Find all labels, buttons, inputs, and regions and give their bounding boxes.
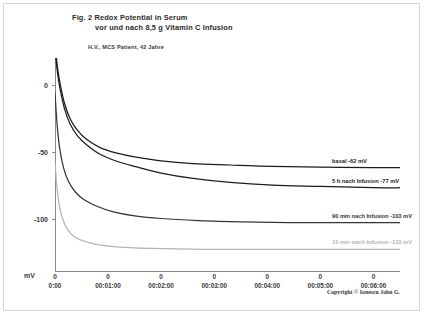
y-axis-tick-mark [52,85,55,86]
x-axis-tick-label: 00:03:00 [201,281,227,290]
x-axis-tick: 000:01:00 [95,272,121,290]
x-axis-tick-zero: 0 [361,272,387,281]
x-axis-tick: 000:03:00 [201,272,227,290]
chart-series-label: 90 min nach Infusion -103 mV [332,213,412,219]
x-axis-tick: 000:05:00 [308,272,334,290]
y-axis-unit-label: mV [24,272,35,279]
patient-info: H.V., MCS Patient, 42 Jahre [88,44,164,50]
y-axis-tick-label: -100 [34,215,48,222]
x-axis-tick-zero: 0 [201,272,227,281]
copyright-notice: Copyright © Ionescu John G. [327,289,400,295]
x-axis-tick: 00:00 [49,272,62,290]
x-axis-tick-label: 00:01:00 [95,281,121,290]
chart-series-label: basal -62 mV [332,158,367,164]
x-axis-tick: 000:06:00 [361,272,387,290]
chart-series-line [55,162,400,249]
figure-subtitle: vor und nach 8,5 g Vitamin C Infusion [72,23,233,33]
x-axis-tick-zero: 0 [255,272,281,281]
chart-series-label: 15 min nach Infusion -123 mV [332,239,412,245]
y-axis-tick-label: -50 [38,148,48,155]
page-title: Fig. 2 Redox Potential in Serum [72,13,233,23]
x-axis-tick: 000:02:00 [148,272,174,290]
figure-page: Fig. 2 Redox Potential in Serum vor und … [0,0,424,315]
x-axis-tick-label: 00:02:00 [148,281,174,290]
y-axis-tick-mark [52,219,55,220]
y-axis-tick-mark [52,152,55,153]
x-axis-tick-label: 00:04:00 [255,281,281,290]
x-axis-tick-label: 0:00 [49,281,62,290]
x-axis-tick-zero: 0 [49,272,62,281]
chart-plot-area: 0-50-10000:00000:01:00000:02:00000:03:00… [55,58,400,272]
x-axis-tick-zero: 0 [148,272,174,281]
figure-title-block: Fig. 2 Redox Potential in Serum vor und … [72,13,233,33]
chart-series-line [55,45,400,168]
x-axis-tick-zero: 0 [308,272,334,281]
chart-series-label: 5 h nach Infusion -77 mV [332,178,399,184]
x-axis-tick: 000:04:00 [255,272,281,290]
x-axis-tick-zero: 0 [95,272,121,281]
y-axis-tick-label: 0 [44,81,48,88]
